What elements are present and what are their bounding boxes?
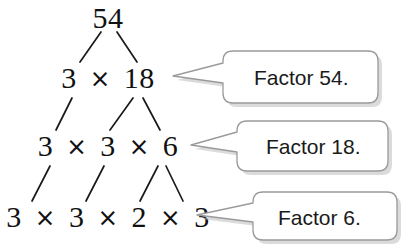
tree-node-6: 6 [163, 129, 179, 162]
tree-node-54: 54 [93, 1, 124, 34]
callout-factor-54-label: Factor 54. [254, 67, 349, 88]
tree-node-3-l3a: 3 [6, 200, 22, 233]
tree-row-level-3: 3 × 3 × 2 × 3 [0, 201, 216, 235]
tree-node-3-l1a: 3 [61, 61, 77, 94]
branch-6-to-3 [166, 166, 183, 201]
branch-3-to-3 [56, 98, 72, 130]
callout-factor-18-label: Factor 18. [266, 136, 361, 157]
branch-3-to-3-b [32, 166, 50, 201]
tree-row-level-2: 3 × 3 × 6 [0, 130, 216, 164]
callout-factor-6: Factor 6. [192, 186, 400, 244]
tree-node-3-l2a: 3 [38, 129, 54, 162]
callout-factor-18: Factor 18. [186, 114, 392, 176]
callout-factor-54: Factor 54. [168, 44, 382, 108]
tree-node-3-l2b: 3 [100, 129, 116, 162]
branch-18-to-6 [143, 98, 160, 130]
multiply-icon: × [155, 203, 186, 232]
branch-54-to-18 [117, 32, 137, 62]
tree-node-18: 18 [124, 61, 155, 94]
factor-tree-figure: 54 3 × 18 3 × 3 × 6 3 × 3 × 2 × 3 Factor… [0, 0, 416, 244]
tree-row-root: 54 [0, 2, 216, 34]
tree-node-3-l3b: 3 [69, 200, 85, 233]
multiply-icon: × [85, 64, 116, 93]
multiply-icon: × [61, 132, 92, 161]
multiply-icon: × [124, 132, 155, 161]
branch-54-to-3 [80, 32, 101, 62]
multiply-icon: × [30, 203, 61, 232]
branch-3-to-3-c [86, 166, 104, 201]
multiply-icon: × [92, 203, 123, 232]
callout-factor-6-label: Factor 6. [278, 207, 361, 228]
branch-6-to-2 [140, 166, 158, 201]
branch-18-to-3 [110, 98, 133, 130]
tree-node-2: 2 [132, 200, 148, 233]
